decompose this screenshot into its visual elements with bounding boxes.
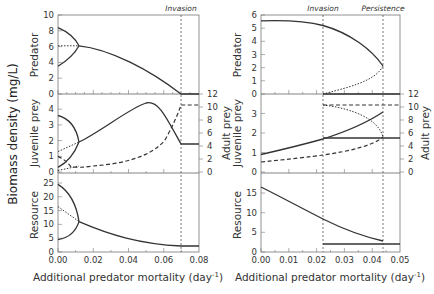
right-adult-unstable	[323, 105, 383, 137]
svg-text:15: 15	[246, 188, 257, 198]
right-predator-stable	[261, 21, 383, 66]
svg-text:12: 12	[207, 89, 218, 99]
right-juvenile-yticks: 0 1 2 3	[252, 109, 265, 178]
svg-text:0: 0	[252, 167, 257, 177]
left-adult-yticks: 0 2 4 6 8 10 12	[199, 89, 218, 177]
svg-text:0.02: 0.02	[307, 255, 326, 265]
left-resource-yticks: 0 5 10 15 20 25	[43, 178, 62, 257]
left-resource-ylabel: Resource	[28, 191, 40, 239]
svg-text:6: 6	[49, 42, 54, 52]
left-predator-ylabel: Predator	[28, 32, 40, 77]
svg-text:0.05: 0.05	[391, 255, 410, 265]
right-resource-yticks: 0 5 10 15	[246, 188, 265, 257]
svg-text:0: 0	[252, 89, 257, 99]
svg-text:0: 0	[408, 167, 413, 177]
right-juvenile-curve	[261, 112, 383, 155]
svg-text:1: 1	[252, 76, 257, 86]
svg-text:10: 10	[246, 208, 257, 218]
shared-ylabel: Biomass density (mg/L)	[6, 63, 20, 204]
svg-text:5: 5	[49, 233, 54, 243]
svg-text:0.01: 0.01	[279, 255, 298, 265]
svg-text:0: 0	[252, 247, 257, 257]
svg-text:1: 1	[49, 151, 54, 161]
svg-text:6: 6	[252, 10, 257, 20]
right-resource-curve	[261, 187, 383, 241]
svg-text:0: 0	[49, 167, 54, 177]
left-predator-yticks: 0 2 4 6 8 10	[43, 10, 62, 99]
svg-text:10: 10	[408, 102, 419, 112]
svg-text:3: 3	[252, 50, 257, 60]
svg-text:4: 4	[207, 141, 212, 151]
svg-text:0: 0	[207, 167, 212, 177]
left-adult-unstable	[58, 166, 79, 171]
svg-text:12: 12	[408, 89, 419, 99]
right-adult-ylabel: Adult prey	[419, 106, 431, 160]
svg-text:2: 2	[207, 154, 212, 164]
left-figure: 0.00 0.02 0.04 0.06 0.08 Additional pred…	[28, 4, 232, 283]
left-predator-curves	[58, 28, 199, 94]
svg-text:0: 0	[49, 247, 54, 257]
right-xtick-labels: 0.00 0.01 0.02 0.03 0.04 0.05	[252, 255, 410, 265]
svg-text:4: 4	[408, 141, 413, 151]
right-frame	[261, 15, 400, 252]
svg-text:0.02: 0.02	[84, 255, 103, 265]
svg-text:0.04: 0.04	[119, 255, 138, 265]
right-persistence-label: Persistence	[361, 4, 405, 13]
left-frame	[58, 15, 199, 252]
right-predator-yticks: 0 1 2 3 4 5 6	[252, 10, 265, 99]
right-adult-curve	[261, 137, 383, 162]
left-xlabel: Additional predator mortality (day-1)	[33, 271, 223, 283]
svg-text:2: 2	[252, 63, 257, 73]
svg-text:4: 4	[49, 104, 54, 114]
svg-text:0.03: 0.03	[335, 255, 354, 265]
svg-text:6: 6	[207, 128, 212, 138]
left-juvenile-ylabel: Juvenile prey	[28, 99, 40, 168]
svg-text:5: 5	[252, 227, 257, 237]
svg-text:15: 15	[43, 206, 54, 216]
svg-text:20: 20	[43, 192, 54, 202]
svg-text:0.04: 0.04	[363, 255, 382, 265]
svg-text:3: 3	[252, 109, 257, 119]
svg-text:4: 4	[252, 36, 257, 46]
svg-text:10: 10	[43, 219, 54, 229]
svg-text:0.06: 0.06	[154, 255, 173, 265]
svg-text:25: 25	[43, 178, 54, 188]
svg-text:8: 8	[408, 115, 413, 125]
right-predator-ylabel: Predator	[231, 32, 243, 77]
svg-text:10: 10	[43, 10, 54, 20]
left-xtick-labels: 0.00 0.02 0.04 0.06 0.08	[49, 255, 209, 265]
svg-text:0: 0	[49, 89, 54, 99]
svg-text:1: 1	[252, 148, 257, 158]
svg-text:0.08: 0.08	[190, 255, 209, 265]
svg-text:2: 2	[49, 136, 54, 146]
right-adult-yticks: 0 2 4 6 8 10 12	[400, 89, 419, 177]
svg-text:4: 4	[49, 57, 54, 67]
left-resource-curves	[58, 184, 199, 246]
svg-text:8: 8	[207, 115, 212, 125]
svg-text:10: 10	[207, 102, 218, 112]
svg-text:2: 2	[49, 73, 54, 83]
left-invasion-label: Invasion	[165, 4, 197, 13]
svg-text:3: 3	[49, 120, 54, 130]
right-xlabel: Additional predator mortality (day-1)	[235, 271, 425, 283]
left-adult-curve	[58, 105, 199, 167]
right-xticks	[261, 90, 386, 252]
svg-text:6: 6	[408, 128, 413, 138]
svg-text:5: 5	[252, 23, 257, 33]
right-predator-unstable	[323, 66, 383, 94]
svg-text:2: 2	[252, 128, 257, 138]
right-juvenile-ylabel: Juvenile prey	[231, 99, 243, 168]
svg-text:8: 8	[49, 26, 54, 36]
right-resource-ylabel: Resource	[231, 191, 243, 239]
figure-canvas: Biomass density (mg/L) 0.00 0.02 0.04 0.…	[0, 0, 434, 294]
right-figure: 0.00 0.01 0.02 0.03 0.04 0.05 Additional…	[231, 4, 431, 283]
right-invasion-label: Invasion	[307, 4, 339, 13]
left-juvenile-curves	[58, 103, 199, 168]
svg-text:2: 2	[408, 154, 413, 164]
